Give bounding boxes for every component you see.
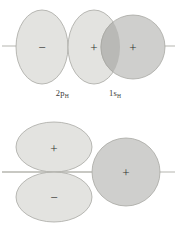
sign-plus-s-orbital: + bbox=[129, 40, 136, 55]
panel-side-on-overlap: + − + 2pH 1sH bbox=[0, 121, 177, 243]
caption-1s-top: 1sH bbox=[109, 88, 121, 98]
caption-2p-top-sub: H bbox=[65, 93, 69, 99]
caption-1s-top-base: 1s bbox=[109, 88, 117, 98]
bottom-diagram-stage: + − + bbox=[0, 121, 177, 243]
sign-minus-p-lower-lobe: − bbox=[50, 190, 57, 205]
sign-plus-p-upper-lobe: + bbox=[50, 141, 57, 156]
sign-minus-p-lobe: − bbox=[38, 40, 45, 55]
caption-2p-top: 2pH bbox=[56, 88, 69, 98]
top-caption-row: 2pH 1sH bbox=[0, 88, 177, 98]
caption-1s-top-sub: H bbox=[117, 93, 121, 99]
bottom-orbital-svg: + − + bbox=[0, 121, 177, 243]
orbital-overlap-figure: − + + 2pH 1sH bbox=[0, 0, 177, 243]
top-orbital-svg: − + + bbox=[0, 0, 177, 121]
sign-plus-p-lobe: + bbox=[90, 40, 97, 55]
top-diagram-stage: − + + bbox=[0, 0, 177, 121]
sign-plus-s-orbital: + bbox=[122, 165, 129, 180]
caption-2p-top-base: 2p bbox=[56, 88, 65, 98]
panel-end-on-overlap: − + + 2pH 1sH bbox=[0, 0, 177, 121]
